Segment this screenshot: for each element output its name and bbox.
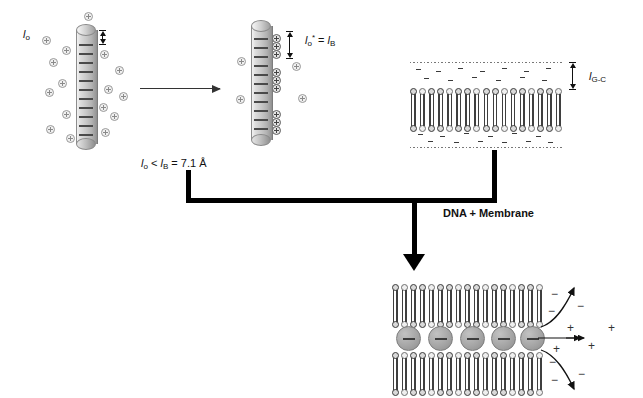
charge-plus: + (588, 340, 595, 352)
charge-minus: − (578, 368, 585, 380)
charge-minus: − (551, 374, 558, 386)
charge-plus-far: + (608, 322, 615, 334)
charge-minus: − (551, 288, 558, 300)
charge-plus: + (553, 343, 560, 355)
diagram-canvas: lo (0, 0, 643, 398)
charge-minus: − (548, 305, 555, 317)
charge-plus: + (567, 322, 574, 334)
charge-minus: − (577, 300, 584, 312)
charge-minus: − (549, 356, 556, 368)
release-arrows-overlay (0, 0, 643, 398)
